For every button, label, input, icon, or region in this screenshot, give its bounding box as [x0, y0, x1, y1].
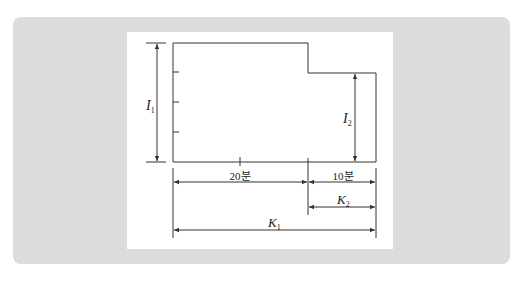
- label-20-min: 20분: [230, 170, 251, 182]
- label-10-min: 10분: [333, 170, 354, 182]
- hydrograph-diagram: I1 I2 20분 10분 K2 K1: [0, 0, 530, 281]
- label-K1: K1: [267, 215, 281, 232]
- stepped-shape: [173, 43, 376, 162]
- label-I1: I1: [145, 98, 155, 115]
- label-K2: K2: [336, 192, 350, 209]
- label-I2: I2: [342, 111, 352, 128]
